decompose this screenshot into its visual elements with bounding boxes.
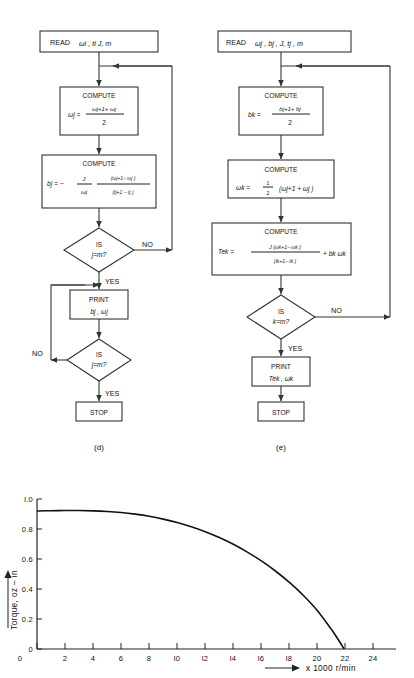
print-title-e: PRINT bbox=[271, 363, 291, 370]
compute2-title-d: COMPUTE bbox=[83, 160, 117, 167]
x-tick-label-11: 22 bbox=[341, 654, 350, 663]
y-ticks bbox=[37, 499, 42, 649]
flowchart-panel-d: READ ωi , ti J, m COMPUTE ωj = ωj+1+ ωj … bbox=[32, 31, 172, 452]
compute2-f1-den-d: ωj bbox=[81, 189, 88, 195]
compute2-half-num-e: 1 bbox=[267, 180, 270, 186]
compute3-denominator-e: (tk+1− tk ) bbox=[274, 258, 297, 264]
compute3-title-e: COMPUTE bbox=[265, 228, 299, 235]
y-tick-label-2: 0.4 bbox=[22, 585, 33, 594]
x-tick-label-8: l6 bbox=[258, 654, 264, 663]
flowchart-panel-e: READ ωj , bj , J, tj , m COMPUTE bk = bj… bbox=[212, 31, 390, 452]
print-args-d: bj , ωj bbox=[90, 308, 108, 316]
read-label-e: READ bbox=[226, 38, 246, 47]
compute1-title-e: COMPUTE bbox=[265, 92, 299, 99]
compute1-title-d: COMPUTE bbox=[83, 92, 117, 99]
decision2-line2-d: j=m? bbox=[91, 361, 107, 369]
compute2-rhs-e: (ωj+1 + ωj ) bbox=[279, 185, 313, 193]
x-tick-label-12: 24 bbox=[369, 654, 378, 663]
read-args-d: ωi , ti J, m bbox=[79, 39, 111, 48]
stop-label-e: STOP bbox=[272, 409, 290, 416]
compute1-lhs-e: bk = bbox=[248, 111, 261, 118]
x-ticks bbox=[37, 643, 373, 649]
x-axis-title: x 1000 r/min bbox=[306, 664, 356, 673]
decision-no-label-e: NO bbox=[331, 306, 342, 315]
decision-line1-e: IS bbox=[278, 308, 285, 315]
loopback-print-d bbox=[51, 285, 85, 360]
compute1-numerator-e: bj+1+ bj bbox=[279, 106, 301, 112]
decision1-line2-d: j=m? bbox=[91, 251, 107, 259]
compute2-f2-num-d: (ωj+1− ωj ) bbox=[111, 175, 136, 181]
torque-curve-line bbox=[37, 511, 344, 649]
x-tick-label-10: 20 bbox=[313, 654, 322, 663]
compute3-lhs-e: Tek = bbox=[218, 248, 234, 255]
x-tick-label-6: l2 bbox=[202, 654, 208, 663]
y-tick-labels: 0 0.2 0.4 0.6 0.8 l.0 bbox=[22, 495, 33, 654]
compute1-denominator-d: 2 bbox=[102, 119, 106, 126]
decision2-diamond-d bbox=[67, 339, 131, 381]
panel-caption-d: (d) bbox=[94, 443, 104, 452]
y-tick-label-3: 0.6 bbox=[22, 555, 33, 564]
y-tick-label-0: 0 bbox=[29, 645, 33, 654]
compute1-numerator-d: ωj+1+ ωj bbox=[92, 106, 117, 112]
torque-speed-chart: Torque, oz – in x 1000 r/min 0 0.2 0.4 0… bbox=[4, 495, 396, 673]
panel-caption-e: (e) bbox=[276, 443, 286, 452]
print-args-e: Tek , ωk bbox=[269, 375, 294, 382]
compute2-lhs-d: bj = − bbox=[47, 180, 64, 188]
x-tick-label-0: 0 bbox=[18, 654, 22, 663]
stop-label-d: STOP bbox=[90, 409, 108, 416]
decision-yes-label-e: YES bbox=[288, 344, 303, 353]
figure-page: READ ωi , ti J, m COMPUTE ωj = ωj+1+ ωj … bbox=[0, 0, 414, 678]
x-tick-label-7: l4 bbox=[230, 654, 236, 663]
compute3-numerator-e: J (ωk+1− ωk ) bbox=[268, 244, 301, 250]
print-title-d: PRINT bbox=[89, 296, 109, 303]
decision1-yes-label-d: YES bbox=[105, 277, 120, 286]
decision1-no-label-d: NO bbox=[142, 240, 153, 249]
y-tick-label-4: 0.8 bbox=[22, 525, 33, 534]
x-tick-label-5: l0 bbox=[174, 654, 180, 663]
decision1-line1-d: IS bbox=[96, 241, 103, 248]
x-tick-label-2: 4 bbox=[91, 654, 95, 663]
read-args-e: ωj , bj , J, tj , m bbox=[255, 39, 303, 48]
x-axis-arrow-head bbox=[292, 664, 300, 671]
x-tick-label-3: 6 bbox=[119, 654, 123, 663]
x-tick-label-9: l8 bbox=[286, 654, 292, 663]
decision2-yes-label-d: YES bbox=[105, 389, 120, 398]
compute2-lhs-e: ωk = bbox=[236, 184, 250, 191]
read-label-d: READ bbox=[50, 38, 70, 47]
decision1-diamond-d bbox=[64, 228, 134, 272]
x-tick-labels: 0 2 4 6 8 l0 l2 l4 l6 l8 20 22 24 bbox=[18, 654, 378, 663]
compute2-title-e: COMPUTE bbox=[265, 166, 299, 173]
y-axis-title: Torque, oz – in bbox=[10, 570, 19, 630]
decision2-line1-d: IS bbox=[96, 351, 103, 358]
decision2-no-label-d: NO bbox=[32, 349, 43, 358]
decision-diamond-e bbox=[247, 295, 315, 339]
decision-line2-e: k=m? bbox=[273, 318, 290, 325]
compute1-denominator-e: 2 bbox=[288, 119, 292, 126]
compute2-half-den-e: 2 bbox=[267, 190, 270, 196]
x-tick-label-1: 2 bbox=[63, 654, 67, 663]
compute1-lhs-d: ωj = bbox=[68, 111, 80, 119]
compute2-f2-den-d: (tj+1 − tj ) bbox=[112, 189, 133, 195]
y-tick-label-5: l.0 bbox=[24, 495, 33, 504]
y-tick-label-1: 0.2 bbox=[22, 615, 33, 624]
compute3-tail-e: + bk ωk bbox=[323, 250, 347, 257]
x-tick-label-4: 8 bbox=[147, 654, 151, 663]
compute2-f1-num-d: J bbox=[82, 176, 87, 182]
